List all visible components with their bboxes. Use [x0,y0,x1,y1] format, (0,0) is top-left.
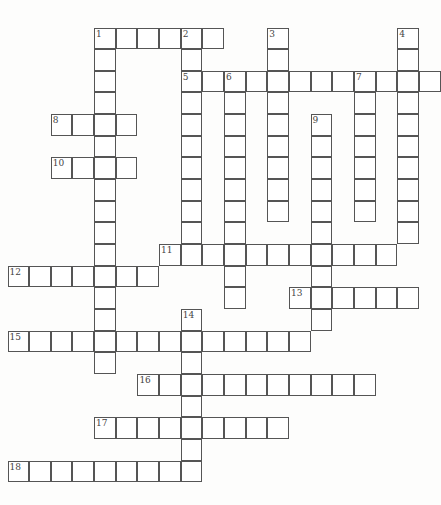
crossword-cell[interactable] [246,244,268,266]
crossword-cell[interactable] [397,49,419,71]
crossword-cell[interactable] [202,374,224,396]
crossword-cell[interactable] [267,114,289,136]
crossword-cell[interactable] [159,374,181,396]
crossword-cell[interactable] [181,439,203,461]
crossword-cell[interactable] [94,114,116,136]
crossword-cell[interactable] [267,201,289,223]
crossword-cell[interactable] [94,157,116,179]
crossword-cell[interactable] [246,71,268,93]
crossword-cell[interactable] [181,374,203,396]
crossword-cell[interactable]: 5 [181,71,203,93]
crossword-cell[interactable]: 9 [311,114,333,136]
crossword-cell[interactable] [94,179,116,201]
crossword-cell[interactable] [354,157,376,179]
crossword-cell[interactable] [181,417,203,439]
crossword-cell[interactable]: 4 [397,28,419,50]
crossword-cell[interactable]: 7 [354,71,376,93]
crossword-cell[interactable] [202,244,224,266]
crossword-cell[interactable] [202,417,224,439]
crossword-cell[interactable] [159,417,181,439]
crossword-cell[interactable] [94,352,116,374]
crossword-cell[interactable] [267,374,289,396]
crossword-cell[interactable] [72,331,94,353]
crossword-cell[interactable] [51,461,73,483]
crossword-cell[interactable] [354,201,376,223]
crossword-cell[interactable] [29,266,51,288]
crossword-cell[interactable] [94,92,116,114]
crossword-cell[interactable] [181,179,203,201]
crossword-cell[interactable] [224,266,246,288]
crossword-cell[interactable] [289,331,311,353]
crossword-cell[interactable] [116,417,138,439]
crossword-cell[interactable] [94,49,116,71]
crossword-cell[interactable]: 16 [137,374,159,396]
crossword-cell[interactable] [116,157,138,179]
crossword-cell[interactable] [116,266,138,288]
crossword-cell[interactable] [311,179,333,201]
crossword-cell[interactable] [137,28,159,50]
crossword-cell[interactable] [94,222,116,244]
crossword-cell[interactable] [354,244,376,266]
crossword-cell[interactable]: 10 [51,157,73,179]
crossword-cell[interactable] [289,374,311,396]
crossword-cell[interactable] [137,331,159,353]
crossword-cell[interactable] [51,331,73,353]
crossword-cell[interactable] [246,331,268,353]
crossword-cell[interactable] [224,222,246,244]
crossword-cell[interactable] [376,244,398,266]
crossword-cell[interactable] [267,92,289,114]
crossword-cell[interactable] [354,179,376,201]
crossword-cell[interactable] [397,136,419,158]
crossword-cell[interactable] [267,179,289,201]
crossword-cell[interactable] [116,331,138,353]
crossword-cell[interactable] [354,287,376,309]
crossword-cell[interactable] [397,92,419,114]
crossword-cell[interactable] [419,71,441,93]
crossword-cell[interactable] [376,71,398,93]
crossword-cell[interactable] [181,114,203,136]
crossword-cell[interactable] [246,417,268,439]
crossword-cell[interactable] [72,157,94,179]
crossword-cell[interactable]: 18 [8,461,30,483]
crossword-cell[interactable] [224,244,246,266]
crossword-cell[interactable] [94,461,116,483]
crossword-cell[interactable] [159,331,181,353]
crossword-cell[interactable] [224,331,246,353]
crossword-cell[interactable] [311,244,333,266]
crossword-cell[interactable] [94,71,116,93]
crossword-cell[interactable]: 11 [159,244,181,266]
crossword-cell[interactable] [311,136,333,158]
crossword-cell[interactable] [72,266,94,288]
crossword-cell[interactable] [94,309,116,331]
crossword-cell[interactable] [224,179,246,201]
crossword-cell[interactable] [354,114,376,136]
crossword-cell[interactable] [311,266,333,288]
crossword-cell[interactable] [181,201,203,223]
crossword-cell[interactable] [289,244,311,266]
crossword-cell[interactable] [137,461,159,483]
crossword-cell[interactable] [224,92,246,114]
crossword-cell[interactable] [267,417,289,439]
crossword-cell[interactable] [397,287,419,309]
crossword-cell[interactable] [116,461,138,483]
crossword-cell[interactable] [267,136,289,158]
crossword-cell[interactable] [311,201,333,223]
crossword-cell[interactable] [202,71,224,93]
crossword-cell[interactable] [224,374,246,396]
crossword-cell[interactable] [354,92,376,114]
crossword-cell[interactable] [159,28,181,50]
crossword-cell[interactable] [397,222,419,244]
crossword-cell[interactable] [332,374,354,396]
crossword-cell[interactable] [354,374,376,396]
crossword-cell[interactable] [267,49,289,71]
crossword-cell[interactable] [181,222,203,244]
crossword-cell[interactable] [94,266,116,288]
crossword-cell[interactable] [267,244,289,266]
crossword-cell[interactable] [72,461,94,483]
crossword-cell[interactable] [94,287,116,309]
crossword-cell[interactable] [94,201,116,223]
crossword-cell[interactable] [224,136,246,158]
crossword-cell[interactable] [332,244,354,266]
crossword-cell[interactable] [289,71,311,93]
crossword-cell[interactable]: 12 [8,266,30,288]
